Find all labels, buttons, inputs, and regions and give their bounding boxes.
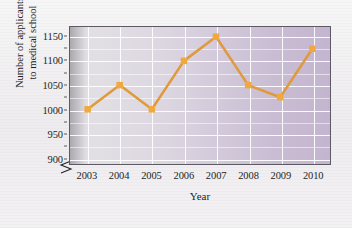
y-axis-tick-mark <box>64 146 67 147</box>
chart-figure: Number of applicants to medical school 9… <box>0 0 352 228</box>
y-axis-tick-mark <box>64 121 67 122</box>
x-axis-tick-label: 2006 <box>174 170 195 181</box>
y-axis-tick-mark <box>64 35 67 36</box>
x-axis-tick-label: 2007 <box>206 170 227 181</box>
x-axis-tick-label: 2005 <box>141 170 162 181</box>
data-point-marker <box>181 58 188 65</box>
y-axis-tick-mark <box>64 48 67 49</box>
plot-area <box>69 26 331 165</box>
data-series <box>70 27 330 164</box>
series-markers <box>84 33 315 112</box>
x-axis-tick-labels: 20032004200520062007200820092010 <box>69 170 331 186</box>
data-point-marker <box>277 94 284 101</box>
y-axis-tick-mark <box>64 60 67 61</box>
y-axis-tick-labels: 9009501000105011001150 <box>0 26 67 165</box>
y-axis-tick-label: 1000 <box>42 104 63 115</box>
y-axis-tick-label: 950 <box>48 129 63 140</box>
x-axis-title: Year <box>69 190 331 202</box>
y-axis-tick-mark <box>64 109 67 110</box>
data-point-marker <box>149 106 156 113</box>
x-axis-tick-label: 2008 <box>238 170 259 181</box>
y-axis-tick-label: 1150 <box>43 30 63 41</box>
data-point-marker <box>116 82 123 89</box>
x-axis-tick-label: 2004 <box>109 170 130 181</box>
y-axis-tick-mark <box>64 84 67 85</box>
data-point-marker <box>84 106 91 113</box>
data-point-marker <box>309 46 316 53</box>
y-axis-tick-mark <box>64 134 67 135</box>
x-axis-tick-label: 2009 <box>271 170 292 181</box>
data-point-marker <box>213 33 220 40</box>
data-point-marker <box>245 82 252 89</box>
y-axis-tick-label: 1050 <box>42 79 63 90</box>
y-axis-tick-mark <box>64 97 67 98</box>
y-axis-tick-label: 1100 <box>43 55 63 66</box>
x-axis-tick-label: 2010 <box>303 170 324 181</box>
y-axis-tick-mark <box>64 72 67 73</box>
x-axis-tick-label: 2003 <box>76 170 97 181</box>
y-axis-tick-mark <box>64 158 67 159</box>
